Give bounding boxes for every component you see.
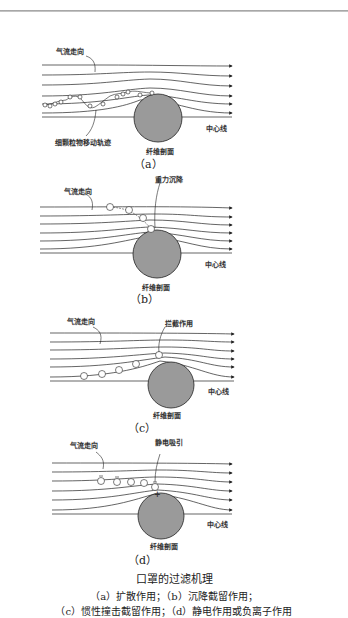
airflow-label: 气流走向 bbox=[56, 46, 84, 56]
inertial-impaction-diagram bbox=[0, 315, 348, 425]
figure-caption-line-1: （a）扩散作用；（b）沉降截留作用； bbox=[0, 588, 348, 603]
sedimentation-label: 重力沉降 bbox=[155, 174, 183, 184]
fiber-cross-section bbox=[138, 493, 184, 539]
centerline-label: 中心线 bbox=[208, 386, 229, 396]
centerline-label: 中心线 bbox=[207, 519, 228, 529]
fiber-cross-section bbox=[134, 94, 182, 142]
airflow-label: 气流走向 bbox=[64, 186, 92, 196]
panel-label-b: （b） bbox=[130, 290, 159, 306]
figure-caption-title: 口罩的过滤机理 bbox=[0, 570, 348, 586]
particle-trajectory-label: 细颗粒物移动轨迹 bbox=[55, 137, 111, 147]
page-top-rule bbox=[0, 10, 348, 12]
figure-caption-line-2: （c）惯性撞击截留作用；（d）静电作用或负离子作用 bbox=[0, 603, 348, 618]
sedimentation-diagram bbox=[0, 170, 348, 290]
fiber-label: 纤维剖面 bbox=[153, 410, 181, 420]
airflow-streamlines bbox=[50, 333, 234, 377]
fiber-label: 纤维剖面 bbox=[150, 541, 178, 551]
fiber-cross-section bbox=[148, 362, 194, 408]
fiber-cross-section bbox=[133, 230, 181, 278]
airflow-label: 气流走向 bbox=[67, 316, 95, 326]
electrostatic-diagram bbox=[0, 445, 348, 555]
electrostatic-attraction-label: 静电吸引 bbox=[155, 437, 183, 447]
panel-label-a: （a） bbox=[134, 155, 163, 171]
diffusion-diagram bbox=[0, 40, 348, 160]
panel-label-d: （d） bbox=[128, 551, 157, 567]
fiber-positive-charge: + bbox=[154, 490, 161, 499]
interception-label: 拦截作用 bbox=[165, 318, 193, 328]
panel-label-c: （c） bbox=[128, 419, 156, 435]
centerline-label: 中心线 bbox=[206, 123, 227, 133]
centerline-label: 中心线 bbox=[205, 259, 226, 269]
airflow-label: 气流走向 bbox=[70, 440, 98, 450]
